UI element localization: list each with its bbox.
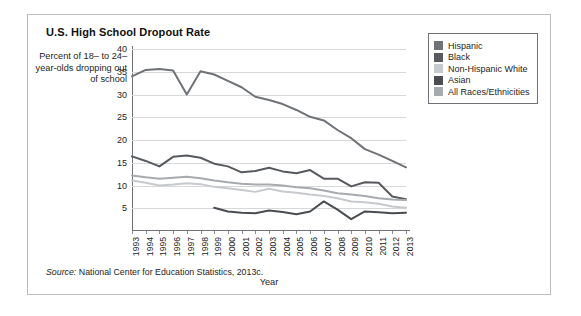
legend-item: Hispanic: [434, 41, 530, 51]
x-tick-label: 2004: [282, 237, 292, 256]
x-tick-label: 2002: [254, 237, 264, 256]
legend-label: Asian: [448, 75, 471, 85]
x-tick-label: 1999: [213, 237, 223, 256]
page-title: U.S. High School Dropout Rate: [46, 26, 210, 38]
legend-label: All Races/Ethnicities: [448, 87, 530, 97]
legend-swatch-icon: [434, 87, 443, 96]
y-tick-label: 25: [117, 112, 127, 122]
plot-area: 510152025303540 199319941995199619971998…: [132, 49, 406, 231]
legend-item: Asian: [434, 75, 530, 85]
y-tick-label: 20: [117, 135, 127, 145]
chart-card: U.S. High School Dropout Rate Percent of…: [27, 14, 551, 295]
legend-item: Non-Hispanic White: [434, 64, 530, 74]
legend-label: Non-Hispanic White: [448, 64, 528, 74]
legend-swatch-icon: [434, 41, 443, 50]
x-axis-title: Year: [132, 277, 406, 287]
x-tick-label: 2000: [227, 237, 237, 256]
source-note: Source: National Center for Education St…: [46, 267, 263, 277]
y-tick-label: 5: [122, 203, 127, 213]
series-lines: [132, 49, 412, 233]
x-tick-label: 2008: [337, 237, 347, 256]
x-tick-label: 1995: [158, 237, 168, 256]
x-tick-label: 2012: [391, 237, 401, 256]
x-tick-label: 2007: [323, 237, 333, 256]
legend-swatch-icon: [434, 53, 443, 62]
y-axis-label: Percent of 18– to 24–year-olds dropping …: [34, 51, 127, 86]
legend-label: Hispanic: [448, 41, 483, 51]
y-tick-label: 10: [117, 181, 127, 191]
x-tick-label: 2010: [364, 237, 374, 256]
x-tick-label: 2005: [295, 237, 305, 256]
legend-item: Black: [434, 52, 530, 62]
x-tick-label: 1996: [172, 237, 182, 256]
series-line-hispanic: [132, 69, 406, 167]
y-tick-label: 40: [117, 44, 127, 54]
source-text: National Center for Education Statistics…: [76, 267, 263, 277]
legend-label: Black: [448, 52, 470, 62]
chart-legend: HispanicBlackNon-Hispanic WhiteAsianAll …: [428, 33, 538, 104]
y-tick-label: 35: [117, 67, 127, 77]
x-tick-label: 2009: [350, 237, 360, 256]
source-prefix: Source:: [46, 267, 76, 277]
x-tick-label: 2013: [405, 237, 415, 256]
x-tick-label: 1998: [200, 237, 210, 256]
legend-swatch-icon: [434, 64, 443, 73]
y-tick-label: 30: [117, 90, 127, 100]
legend-swatch-icon: [434, 76, 443, 85]
x-tick-label: 2001: [241, 237, 251, 256]
y-tick-label: 15: [117, 158, 127, 168]
legend-item: All Races/Ethnicities: [434, 87, 530, 97]
x-tick-label: 2011: [378, 237, 388, 255]
x-tick-label: 1994: [145, 237, 155, 256]
x-tick-label: 2006: [309, 237, 319, 256]
x-tick-label: 1997: [186, 237, 196, 256]
x-tick-label: 1993: [131, 237, 141, 256]
x-tick-label: 2003: [268, 237, 278, 256]
